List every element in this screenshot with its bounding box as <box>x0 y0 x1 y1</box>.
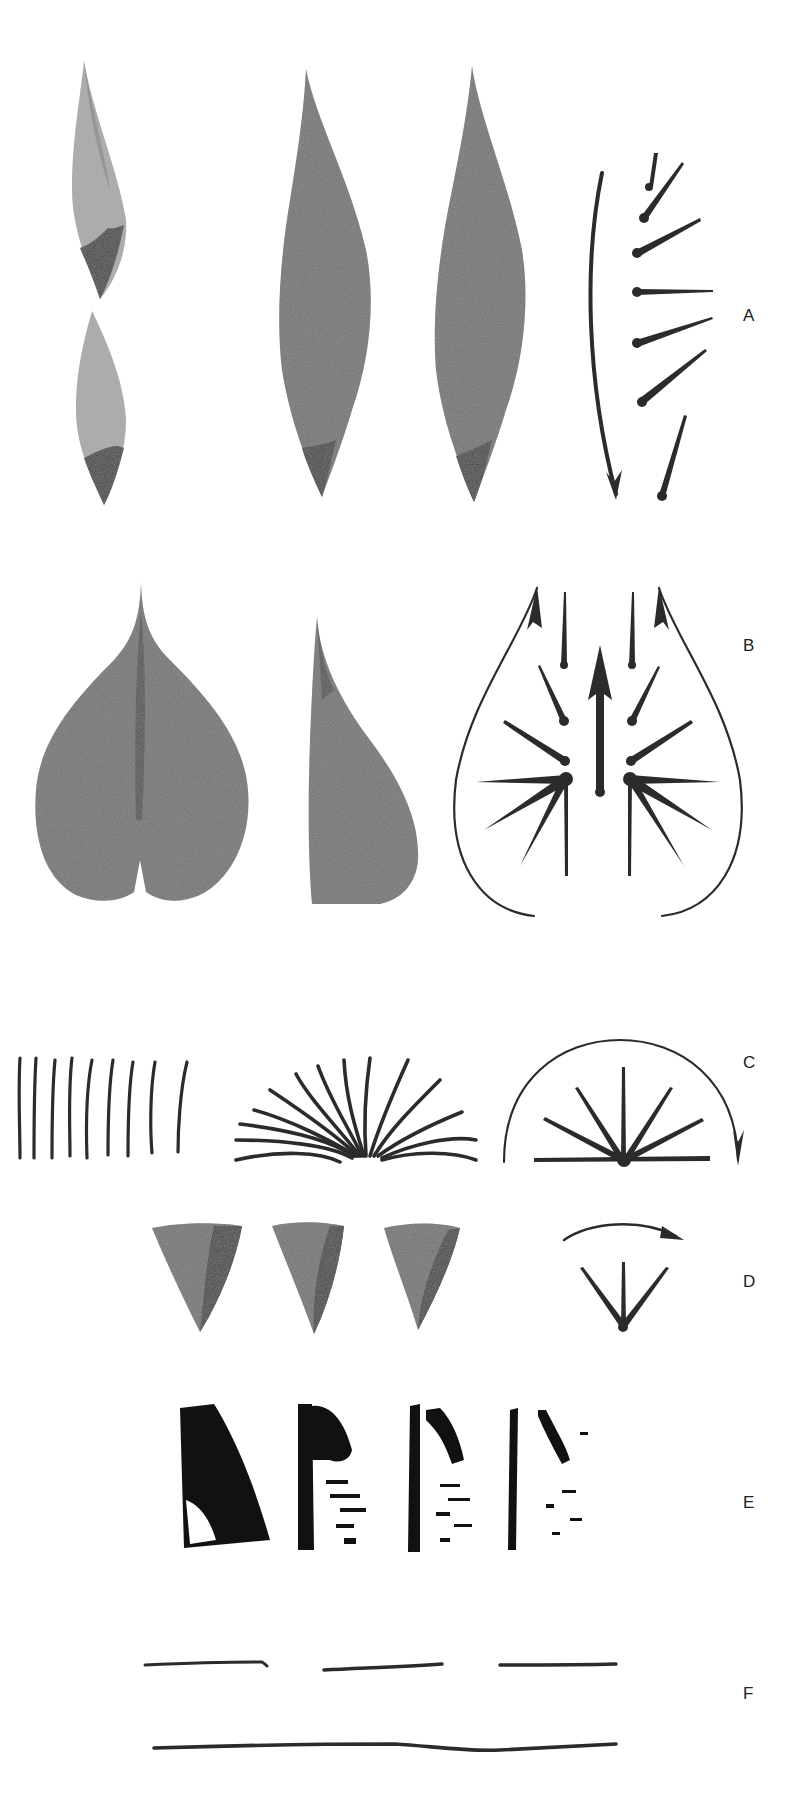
dry-brush-block-4 <box>508 1408 588 1550</box>
brush-stroke-plate <box>0 0 812 1796</box>
section-label-c: C <box>743 1054 755 1071</box>
stroke-direction-diagram-b <box>454 586 741 916</box>
short-stroke-3 <box>500 1664 616 1665</box>
section-label-d: D <box>743 1273 755 1290</box>
leaf-small-upper <box>72 61 126 299</box>
section-label-e: E <box>743 1494 754 1511</box>
leaf-large-1 <box>279 69 371 497</box>
section-f <box>145 1662 616 1750</box>
dry-brush-block-3 <box>408 1404 472 1552</box>
leaf-small-lower <box>76 311 126 505</box>
dry-brush-block-2 <box>298 1404 366 1550</box>
short-stroke-2 <box>324 1664 442 1670</box>
triangle-stroke-1 <box>152 1223 242 1332</box>
dry-brush-block-1 <box>180 1404 270 1548</box>
section-label-b: B <box>743 637 754 654</box>
fan-diagram-d <box>564 1224 684 1332</box>
section-c <box>19 1040 744 1167</box>
section-label-f: F <box>743 1685 753 1702</box>
triangle-stroke-3 <box>384 1224 460 1331</box>
stroke-direction-arrow-a <box>590 173 622 500</box>
leaf-heart <box>35 582 248 901</box>
dot-strokes-a <box>632 153 713 501</box>
semicircle-stroke-diagram <box>504 1040 744 1167</box>
fanned-strokes <box>236 1058 476 1162</box>
section-a <box>72 61 713 505</box>
leaf-large-2 <box>435 66 526 502</box>
section-b <box>35 582 741 916</box>
section-e <box>180 1404 588 1552</box>
leaf-half <box>309 617 418 904</box>
long-stroke <box>154 1744 616 1750</box>
triangle-stroke-2 <box>272 1222 344 1334</box>
parallel-strokes <box>19 1058 187 1158</box>
section-d <box>152 1222 684 1334</box>
section-label-a: A <box>743 307 754 324</box>
short-stroke-1 <box>145 1662 267 1666</box>
